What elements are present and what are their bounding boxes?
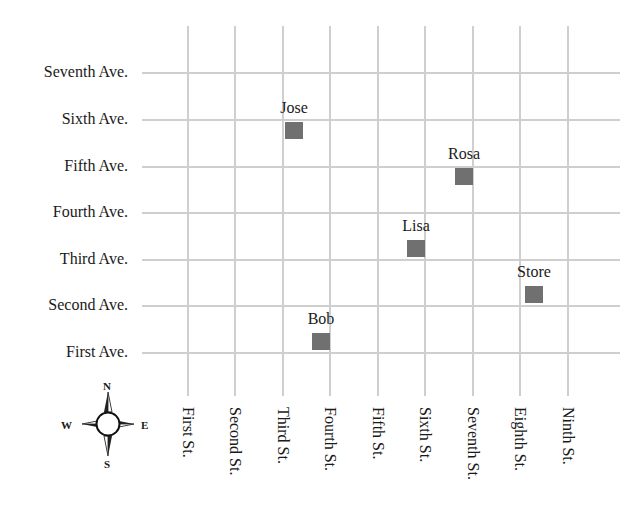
avenue-label: Fifth Ave. <box>0 157 128 175</box>
street-line <box>234 26 236 396</box>
compass-west-label: W <box>61 419 72 431</box>
avenue-line <box>142 305 620 307</box>
avenue-label: First Ave. <box>0 343 128 361</box>
location-label-store: Store <box>517 263 551 281</box>
compass-south-label: S <box>104 458 110 470</box>
avenue-line <box>142 72 620 74</box>
location-marker-rosa <box>455 168 473 185</box>
avenue-label: Sixth Ave. <box>0 110 128 128</box>
location-marker-jose <box>285 122 303 139</box>
street-label: Second St. <box>226 407 244 475</box>
location-marker-lisa <box>407 240 425 257</box>
avenue-label: Third Ave. <box>0 250 128 268</box>
street-label: Fourth St. <box>321 407 339 471</box>
street-grid-map: Seventh Ave.Sixth Ave.Fifth Ave.Fourth A… <box>0 0 643 523</box>
street-line <box>187 26 189 396</box>
street-label: First St. <box>179 407 197 458</box>
compass-rose: N S W E <box>58 378 158 473</box>
compass-east-label: E <box>141 419 148 431</box>
street-line <box>567 26 569 396</box>
street-label: Ninth St. <box>559 407 577 465</box>
location-label-rosa: Rosa <box>448 145 480 163</box>
compass-north-label: N <box>103 380 111 392</box>
street-label: Sixth St. <box>416 407 434 462</box>
location-label-bob: Bob <box>308 310 335 328</box>
avenue-line <box>142 166 620 168</box>
street-line <box>424 26 426 396</box>
street-line <box>472 26 474 396</box>
avenue-line <box>142 119 620 121</box>
avenue-label: Second Ave. <box>0 296 128 314</box>
avenue-line <box>142 212 620 214</box>
avenue-label: Fourth Ave. <box>0 203 128 221</box>
street-label: Seventh St. <box>464 407 482 480</box>
avenue-label: Seventh Ave. <box>0 63 128 81</box>
street-line <box>377 26 379 396</box>
avenue-line <box>142 259 620 261</box>
location-label-jose: Jose <box>280 99 308 117</box>
location-label-lisa: Lisa <box>402 217 430 235</box>
street-line <box>282 26 284 396</box>
location-marker-bob <box>312 333 330 350</box>
street-label: Eighth St. <box>511 407 529 471</box>
street-label: Third St. <box>274 407 292 464</box>
location-marker-store <box>525 286 543 303</box>
avenue-line <box>142 352 620 354</box>
street-line <box>519 26 521 396</box>
street-label: Fifth St. <box>369 407 387 459</box>
